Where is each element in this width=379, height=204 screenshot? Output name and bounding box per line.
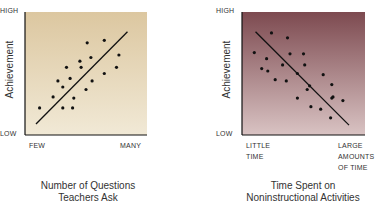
data-point [78, 60, 81, 63]
right-plot-area [242, 12, 365, 135]
data-point [286, 36, 289, 39]
right-chart-title: Time Spent on Noninstructional Activitie… [218, 180, 379, 204]
right-y-axis-label: Achievement [221, 40, 232, 100]
right-x-low-line-2: TIME [246, 152, 270, 161]
left-y-high-label: HIGH [0, 6, 18, 15]
data-point [329, 116, 332, 119]
data-point [266, 69, 269, 72]
data-point [52, 95, 55, 98]
data-point [86, 41, 89, 44]
data-point [281, 63, 284, 66]
data-point [61, 85, 64, 88]
left-chart-title: Number of Questions Teachers Ask [3, 180, 173, 204]
left-x-high-label: MANY [120, 141, 141, 150]
data-point [103, 72, 106, 75]
data-point [306, 88, 309, 91]
data-point [274, 78, 277, 81]
right-y-low-label: LOW [216, 129, 233, 138]
data-point [319, 108, 322, 111]
data-point [330, 83, 333, 86]
left-x-low-label: FEW [29, 141, 45, 150]
right-title-line-1: Time Spent on [218, 180, 379, 192]
data-point [103, 39, 106, 42]
right-x-high-line-2: AMOUNTS [338, 152, 374, 161]
data-point [65, 66, 68, 69]
left-plot [25, 12, 147, 135]
data-point [115, 66, 118, 69]
left-title-line-2: Teachers Ask [3, 192, 173, 204]
left-y-axis-label: Achievement [4, 40, 15, 100]
data-point [322, 73, 325, 76]
data-point [330, 97, 333, 100]
data-point [69, 77, 72, 80]
data-point [270, 31, 273, 34]
right-x-high-line-3: OF TIME [338, 163, 374, 172]
data-point [71, 106, 74, 109]
right-x-high-line-1: LARGE [338, 141, 374, 150]
data-point [260, 67, 263, 70]
data-point [296, 97, 299, 100]
data-point [84, 88, 87, 91]
data-point [56, 79, 59, 82]
charts-canvas [0, 0, 379, 204]
right-x-high-label: LARGE AMOUNTS OF TIME [338, 141, 374, 172]
data-point [341, 99, 344, 102]
data-point [117, 53, 120, 56]
data-point [309, 105, 312, 108]
data-point [61, 106, 64, 109]
data-point [303, 63, 306, 66]
left-y-low-label: LOW [0, 129, 17, 138]
data-point [89, 56, 92, 59]
data-point [288, 52, 291, 55]
data-point [38, 106, 41, 109]
data-point [253, 51, 256, 54]
data-point [302, 52, 305, 55]
data-point [285, 79, 288, 82]
right-x-low-label: LITTLE TIME [246, 141, 270, 161]
data-point [72, 97, 75, 100]
right-plot [242, 12, 365, 135]
data-point [265, 57, 268, 60]
right-title-line-2: Noninstructional Activities [218, 192, 379, 204]
left-title-line-1: Number of Questions [3, 180, 173, 192]
data-point [80, 66, 83, 69]
data-point [91, 79, 94, 82]
right-y-high-label: HIGH [216, 6, 234, 15]
right-x-low-line-1: LITTLE [246, 141, 270, 150]
